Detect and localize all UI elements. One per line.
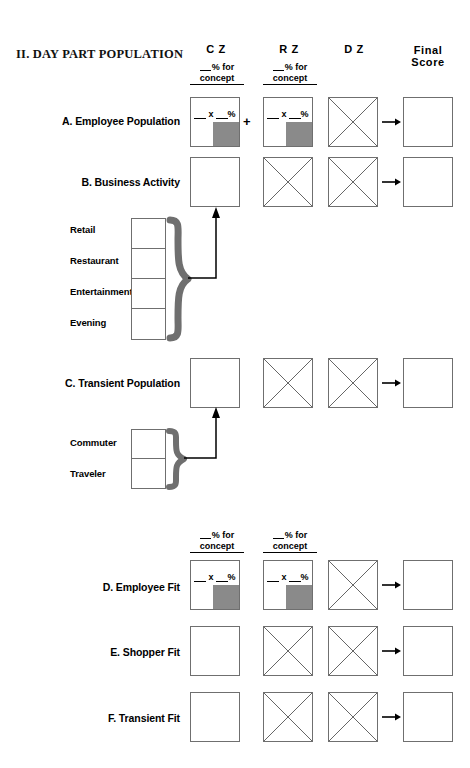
fraction-header-rz-row-a: % for concept <box>263 62 317 85</box>
shaded-fill <box>286 585 312 609</box>
column-header-final-score: Final Score <box>402 44 454 68</box>
cell-c-cz[interactable] <box>190 358 240 408</box>
fraction-denominator: concept <box>190 73 244 85</box>
group-item-label-commuter: Commuter <box>70 437 117 448</box>
cell-c-final-score[interactable] <box>403 358 453 408</box>
cell-e-final-score[interactable] <box>403 626 453 676</box>
fraction-header-cz-row-a: % for concept <box>190 62 244 85</box>
cell-f-final-score[interactable] <box>403 692 453 742</box>
row-label-a-employee-population: A. Employee Population <box>0 115 180 127</box>
arrow-right-icon-row-f <box>382 712 402 722</box>
cell-b-dz[interactable] <box>328 157 378 207</box>
transient-stack[interactable] <box>131 429 166 489</box>
cell-formula: x% <box>264 572 312 582</box>
column-header-cz: C Z <box>190 44 242 55</box>
group-item-label-retail: Retail <box>70 224 95 235</box>
fraction-numerator: % for <box>263 62 317 73</box>
cell-a-dz[interactable] <box>328 97 378 147</box>
cell-a-cz[interactable]: x% <box>190 97 240 147</box>
stack-cell-evening[interactable] <box>132 309 165 339</box>
stack-cell-traveler[interactable] <box>132 459 165 488</box>
row-label-b-business-activity: B. Business Activity <box>0 176 180 188</box>
row-label-c-transient-population: C. Transient Population <box>0 377 180 389</box>
arrow-right-icon-row-c <box>382 378 402 388</box>
page-title: II. DAY PART POPULATION <box>16 47 183 62</box>
cell-b-rz[interactable] <box>263 157 313 207</box>
cell-formula: x% <box>191 572 239 582</box>
group-item-label-restaurant: Restaurant <box>70 255 119 266</box>
arrow-right-icon-row-b <box>382 177 402 187</box>
cell-d-final-score[interactable] <box>403 560 453 610</box>
cell-e-dz[interactable] <box>328 626 378 676</box>
day-part-population-worksheet: II. DAY PART POPULATION C Z R Z D Z Fina… <box>0 0 470 768</box>
cell-d-cz[interactable]: x% <box>190 560 240 610</box>
stack-cell-commuter[interactable] <box>132 430 165 459</box>
cell-a-rz[interactable]: x% <box>263 97 313 147</box>
shaded-fill <box>213 122 239 146</box>
fraction-header-rz-row-d: % for concept <box>263 530 317 553</box>
cell-formula: x% <box>191 109 239 119</box>
row-label-d-employee-fit: D. Employee Fit <box>0 581 180 593</box>
cell-f-dz[interactable] <box>328 692 378 742</box>
column-header-dz: D Z <box>328 44 380 55</box>
connector-arrow-icon-transient <box>184 406 224 466</box>
fraction-denominator: concept <box>190 541 244 553</box>
plus-operator-row-a: + <box>243 114 251 129</box>
cell-d-dz[interactable] <box>328 560 378 610</box>
row-label-e-shopper-fit: E. Shopper Fit <box>0 646 180 658</box>
stack-cell-entertainment[interactable] <box>132 279 165 309</box>
cell-b-cz[interactable] <box>190 157 240 207</box>
cell-c-dz[interactable] <box>328 358 378 408</box>
column-header-rz: R Z <box>263 44 315 55</box>
shaded-fill <box>213 585 239 609</box>
cell-a-final-score[interactable] <box>403 97 453 147</box>
arrow-right-icon-row-a <box>382 117 402 127</box>
group-item-label-evening: Evening <box>70 317 106 328</box>
final-score-line2: Score <box>411 56 445 68</box>
cell-formula: x% <box>264 109 312 119</box>
group-item-label-traveler: Traveler <box>70 468 106 479</box>
row-label-f-transient-fit: F. Transient Fit <box>0 712 180 724</box>
cell-d-rz[interactable]: x% <box>263 560 313 610</box>
connector-arrow-icon-business-activity <box>188 206 228 286</box>
cell-f-rz[interactable] <box>263 692 313 742</box>
fraction-numerator: % for <box>263 530 317 541</box>
business-activity-stack[interactable] <box>131 218 166 340</box>
cell-f-cz[interactable] <box>190 692 240 742</box>
group-item-label-entertainment: Entertainment <box>70 286 133 297</box>
fraction-denominator: concept <box>263 73 317 85</box>
fraction-numerator: % for <box>190 62 244 73</box>
shaded-fill <box>286 122 312 146</box>
cell-c-rz[interactable] <box>263 358 313 408</box>
arrow-right-icon-row-d <box>382 580 402 590</box>
stack-cell-restaurant[interactable] <box>132 249 165 279</box>
cell-b-final-score[interactable] <box>403 157 453 207</box>
cell-e-rz[interactable] <box>263 626 313 676</box>
stack-cell-retail[interactable] <box>132 219 165 249</box>
fraction-header-cz-row-d: % for concept <box>190 530 244 553</box>
arrow-right-icon-row-e <box>382 646 402 656</box>
final-score-line1: Final <box>414 44 443 56</box>
fraction-numerator: % for <box>190 530 244 541</box>
cell-e-cz[interactable] <box>190 626 240 676</box>
fraction-denominator: concept <box>263 541 317 553</box>
